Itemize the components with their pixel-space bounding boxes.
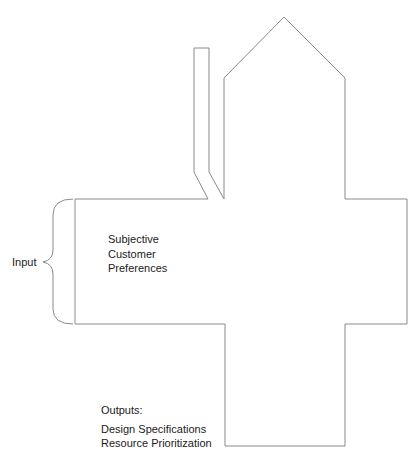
center-text-line-3: Preferences	[108, 261, 167, 276]
house-diagram	[0, 0, 416, 460]
center-text-line-1: Subjective	[108, 232, 167, 247]
outputs-block: Outputs: Design Specifications Resource …	[101, 403, 212, 451]
input-label: Input	[12, 255, 36, 270]
output-item-2: Resource Prioritization	[101, 436, 212, 451]
input-brace	[43, 199, 73, 324]
outputs-heading: Outputs:	[101, 403, 212, 418]
center-text-block: Subjective Customer Preferences	[108, 232, 167, 276]
output-item-1: Design Specifications	[101, 422, 212, 437]
center-text-line-2: Customer	[108, 247, 167, 262]
